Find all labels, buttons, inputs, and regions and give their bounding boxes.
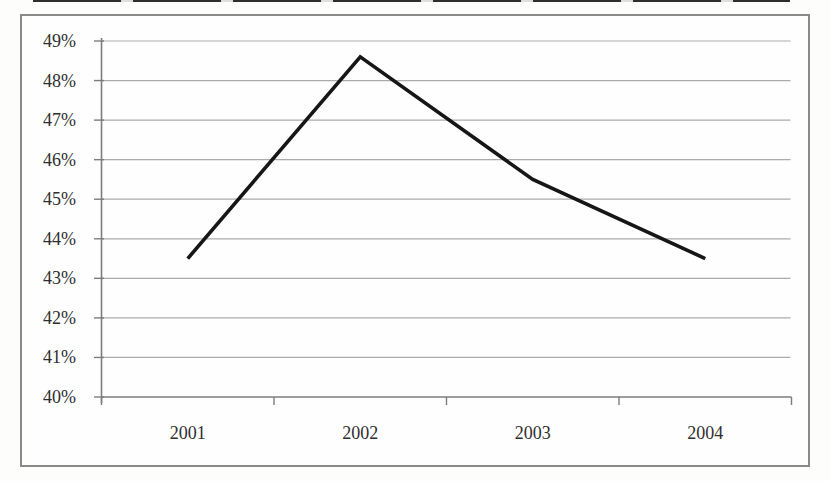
line-chart: 40%41%42%43%44%45%46%47%48%49%2001200220…	[0, 0, 830, 481]
x-axis-label: 2003	[515, 423, 551, 443]
y-axis-label: 41%	[43, 347, 76, 367]
y-axis-label: 49%	[43, 31, 76, 51]
x-axis-label: 2002	[342, 423, 378, 443]
y-axis-label: 42%	[43, 308, 76, 328]
y-axis-label: 43%	[43, 268, 76, 288]
chart-page: 40%41%42%43%44%45%46%47%48%49%2001200220…	[0, 0, 830, 481]
x-axis-label: 2004	[687, 423, 723, 443]
y-axis-label: 48%	[43, 71, 76, 91]
y-axis-label: 45%	[43, 189, 76, 209]
y-axis-label: 46%	[43, 150, 76, 170]
x-axis-label: 2001	[170, 423, 206, 443]
y-axis-label: 47%	[43, 110, 76, 130]
y-axis-label: 40%	[43, 387, 76, 407]
y-axis-label: 44%	[43, 229, 76, 249]
data-line-series	[188, 57, 706, 259]
